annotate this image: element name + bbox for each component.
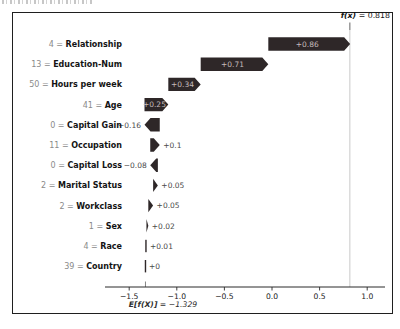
feature-label-capital-loss: 0 = Capital Loss [51, 161, 123, 170]
feature-label-hours-per-week: 50 = Hours per week [29, 80, 122, 89]
fx-annotation-value: = 0.818 [356, 11, 390, 20]
bar-value-label: +0 [149, 262, 160, 271]
bar-value-label: +0.01 [150, 242, 173, 251]
bar-value-label: +0.1 [163, 141, 181, 150]
bar-value-label: +0.71 [221, 60, 244, 69]
feature-label-sex: 1 = Sex [89, 222, 123, 231]
fx-annotation-prefix: f(x) [341, 11, 357, 20]
shap-bar-marital-status [153, 179, 158, 192]
feature-label-capital-gain: 0 = Capital Gain [50, 121, 122, 130]
x-tick-label: 1.0 [361, 292, 373, 301]
bar-value-label: +0.05 [161, 181, 184, 190]
x-tick-label: 0.0 [266, 292, 278, 301]
shap-bar-country [145, 260, 146, 272]
ef-annotation-value: = −1.329 [157, 300, 197, 309]
bar-value-label: −0.08 [124, 161, 147, 170]
ef-annotation-prefix: E[f(X)] [129, 300, 158, 309]
feature-label-race: 4 = Race [83, 242, 122, 251]
bar-value-label: +0.25 [143, 100, 166, 109]
fx-annotation: f(x) = 0.818 [341, 11, 390, 20]
shap-bar-occupation [150, 138, 160, 151]
feature-label-age: 41 = Age [83, 101, 123, 110]
shap-bar-workclass [148, 199, 153, 212]
shap-bar-capital-loss [150, 159, 158, 172]
shap-bar-race [145, 240, 146, 252]
x-tick-label: −0.5 [215, 292, 234, 301]
feature-label-country: 39 = Country [64, 262, 122, 271]
feature-label-education-num: 13 = Education-Num [31, 60, 122, 69]
shap-bar-sex [146, 219, 148, 232]
bar-value-label: +0.34 [171, 80, 194, 89]
shap-bar-capital-gain [145, 118, 160, 131]
screenshot-root: −1.5−1.0−0.50.00.51.0+0.864 = Relationsh… [0, 0, 400, 329]
feature-label-occupation: 11 = Occupation [49, 141, 122, 150]
x-tick-label: 0.5 [314, 292, 326, 301]
feature-label-workclass: 2 = Workclass [59, 202, 122, 211]
waterfall-plot-svg: −1.5−1.0−0.50.00.51.0+0.864 = Relationsh… [0, 0, 400, 329]
bar-value-label: +0.86 [296, 40, 319, 49]
feature-label-marital-status: 2 = Marital Status [41, 181, 122, 190]
expected-value-annotation: E[f(X)] = −1.329 [129, 300, 197, 309]
bar-value-label: +0.05 [157, 201, 180, 210]
feature-label-relationship: 4 = Relationship [49, 40, 123, 49]
bar-value-label: +0.02 [152, 222, 175, 231]
